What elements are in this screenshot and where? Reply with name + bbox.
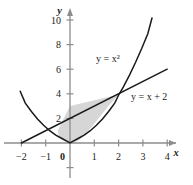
line-series-y-equals-x-plus-2 <box>21 69 167 143</box>
y-tick-label-6: 6 <box>56 64 61 75</box>
y-tick-label-10: 10 <box>51 15 61 26</box>
x-tick-label--2: −2 <box>16 151 27 162</box>
x-tick-label-0: 0 <box>60 151 65 162</box>
y-tick-label-4: 4 <box>56 88 61 99</box>
x-tick-label-4: 4 <box>165 151 170 162</box>
x-axis-label: x <box>172 147 178 158</box>
x-tick-label--1: −1 <box>40 151 51 162</box>
x-tick-label-2: 2 <box>116 151 121 162</box>
annotation-line: y = x + 2 <box>131 91 167 102</box>
x-axis-arrow <box>169 140 176 146</box>
y-axis-arrow <box>67 8 73 16</box>
x-tick-label-3: 3 <box>140 151 145 162</box>
area-between-curves-chart: −2 −1 0 1 2 3 4 2 4 6 8 10 y x y = x² y … <box>0 0 193 185</box>
annotation-parabola: y = x² <box>96 53 120 64</box>
x-tick-label-1: 1 <box>92 151 97 162</box>
y-tick-label-8: 8 <box>56 39 61 50</box>
figure-container: −2 −1 0 1 2 3 4 2 4 6 8 10 y x y = x² y … <box>0 0 193 185</box>
y-axis-label: y <box>55 5 62 16</box>
y-tick-label-2: 2 <box>56 113 61 124</box>
